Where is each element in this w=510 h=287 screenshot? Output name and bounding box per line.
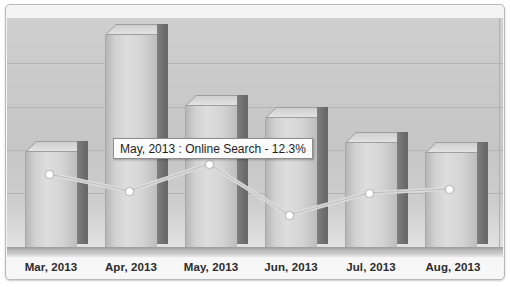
- chart-widget: May, 2013 : Online Search - 12.3% Mar, 2…: [5, 4, 505, 280]
- category-label-mar: Mar, 2013: [11, 261, 91, 273]
- axis-base-edge: [7, 254, 503, 257]
- plot-area: [7, 18, 503, 254]
- line-marker-apr[interactable]: [126, 188, 133, 195]
- bar-front-face: [425, 153, 477, 254]
- bar-side-face: [237, 95, 248, 244]
- bar-front-face: [185, 106, 237, 254]
- tooltip: May, 2013 : Online Search - 12.3%: [113, 138, 313, 159]
- category-label-jun: Jun, 2013: [251, 261, 331, 273]
- bar-side-face: [317, 107, 328, 244]
- category-axis: Mar, 2013 Apr, 2013 May, 2013 Jun, 2013 …: [7, 258, 503, 280]
- category-label-jul: Jul, 2013: [331, 261, 411, 273]
- gridline: [7, 107, 503, 108]
- line-marker-aug[interactable]: [446, 186, 453, 193]
- bar-side-face: [397, 132, 408, 244]
- category-label-apr: Apr, 2013: [91, 261, 171, 273]
- bar-front-face: [25, 152, 77, 254]
- line-marker-jul[interactable]: [366, 190, 373, 197]
- gridline: [7, 63, 503, 64]
- plot-right-border: [499, 18, 500, 254]
- bar-side-face: [77, 141, 88, 244]
- line-marker-jun[interactable]: [286, 212, 293, 219]
- bar-front-face: [345, 143, 397, 254]
- bar-side-face: [157, 24, 168, 244]
- bar-side-face: [477, 142, 488, 244]
- category-label-may: May, 2013: [171, 261, 251, 273]
- line-marker-may[interactable]: [206, 161, 213, 168]
- line-marker-mar[interactable]: [46, 171, 53, 178]
- category-label-aug: Aug, 2013: [413, 261, 493, 273]
